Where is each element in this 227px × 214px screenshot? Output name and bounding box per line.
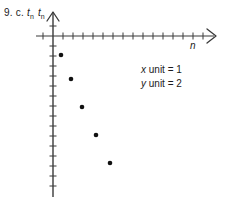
data-point: (4, -20): [94, 133, 99, 138]
y-axis-label-subscript: n: [41, 13, 45, 20]
data-points-group: (1, -4)(2, -9)(3, -15)(4, -20)(5, -26): [59, 53, 113, 166]
axes-group: [36, 12, 216, 197]
data-point: (2, -9): [69, 77, 74, 82]
data-point: (3, -15): [80, 105, 85, 110]
data-point: (1, -4): [59, 53, 64, 58]
axis-ticks-group: [43, 26, 203, 186]
sequence-graph-figure: 9. c. tn n x unit = 1 y unit = 2 (1, -4)…: [0, 0, 227, 214]
data-point: (5, -26): [108, 161, 113, 166]
plot-area: (1, -4)(2, -9)(3, -15)(4, -20)(5, -26): [0, 0, 227, 214]
y-axis-label: tn: [38, 7, 45, 20]
